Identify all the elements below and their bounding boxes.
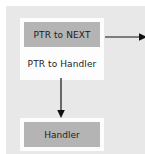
next-pointer-arrow-icon [105,30,145,44]
handler-box: Handler [24,122,100,147]
handler-label: Handler [44,130,79,140]
ptr-to-next-label: PTR to NEXT [34,30,91,40]
diagram-panel: PTR to NEXT PTR to Handler Handler [6,6,145,154]
ptr-to-handler-field: PTR to Handler [24,51,100,76]
ptr-to-handler-label: PTR to Handler [28,59,97,69]
handler-pointer-arrow-icon [54,78,68,118]
handler-container: Handler [20,118,104,151]
ptr-to-next-field: PTR to NEXT [24,22,100,47]
list-node-container: PTR to NEXT PTR to Handler [20,18,104,80]
